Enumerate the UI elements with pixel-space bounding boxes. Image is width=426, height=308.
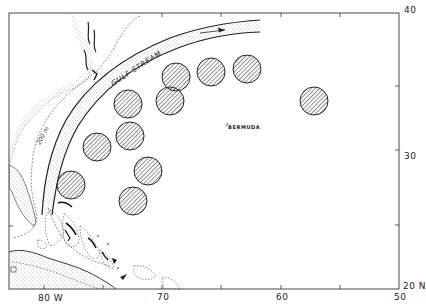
lat-label-40: 40	[404, 5, 416, 15]
top-axis-ticks	[162, 13, 340, 17]
sample-area	[114, 90, 142, 118]
sample-area	[57, 171, 85, 199]
sample-area	[197, 58, 225, 86]
sample-area	[119, 187, 147, 215]
lon-label-80w: 80 W	[38, 293, 63, 303]
lon-label-60: 60	[276, 292, 288, 302]
lat-label-20n: 20 N	[403, 281, 426, 291]
lon-label-70: 70	[157, 292, 169, 302]
map-figure: GULF STREAM 200 m	[0, 0, 426, 308]
hispaniola-shelf	[120, 266, 180, 289]
sample-area	[233, 55, 261, 83]
lon-label-50: 50	[394, 292, 406, 302]
sample-area	[83, 133, 111, 161]
sampling-areas	[57, 55, 328, 215]
right-axis-ticks	[395, 86, 399, 225]
sample-area	[162, 63, 190, 91]
florida-land	[9, 165, 36, 226]
bermuda-label: BERMUDA	[228, 124, 260, 130]
sample-area	[134, 157, 162, 185]
sample-area	[300, 87, 328, 115]
sample-area	[116, 122, 144, 150]
cuba-land	[9, 250, 116, 289]
sample-area	[156, 87, 184, 115]
isobath-label: 200 m	[35, 125, 50, 145]
lat-label-30: 30	[404, 151, 416, 161]
